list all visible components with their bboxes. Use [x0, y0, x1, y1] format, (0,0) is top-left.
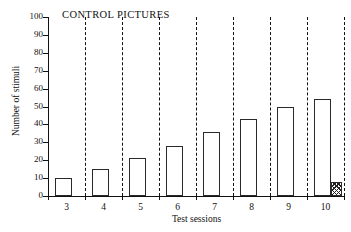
y-tick-label: 50	[19, 102, 43, 111]
x-tick-label: 7	[202, 202, 228, 213]
bar	[277, 107, 294, 197]
y-tick-label: 80	[19, 48, 43, 57]
x-tick	[344, 196, 345, 200]
bar-series	[48, 17, 344, 196]
x-tick	[307, 196, 308, 200]
y-tick-label: 30	[19, 137, 43, 146]
bar-hatched	[331, 182, 342, 196]
x-tick	[270, 196, 271, 200]
x-tick	[85, 196, 86, 200]
bar	[55, 178, 72, 196]
bar	[129, 158, 146, 196]
y-tick-label: 70	[19, 66, 43, 75]
bar	[92, 169, 109, 196]
y-tick-label-wrap: 70	[0, 66, 43, 75]
session-separator	[344, 17, 345, 196]
x-tick-label: 10	[313, 202, 339, 213]
bar	[203, 132, 220, 196]
x-tick	[159, 196, 160, 200]
x-tick-label: 5	[128, 202, 154, 213]
y-tick-label: 100	[19, 12, 43, 21]
y-tick-label-wrap: 50	[0, 102, 43, 111]
y-tick-label-wrap: 10	[0, 173, 43, 182]
bar	[314, 99, 331, 196]
y-tick-label-wrap: 60	[0, 84, 43, 93]
bar	[240, 119, 257, 196]
y-tick-label: 20	[19, 155, 43, 164]
y-tick-label: 90	[19, 30, 43, 39]
x-tick-label: 3	[54, 202, 80, 213]
y-tick-label: 0	[19, 191, 43, 200]
y-tick-label: 60	[19, 84, 43, 93]
x-tick-label: 8	[239, 202, 265, 213]
y-tick-label: 10	[19, 173, 43, 182]
x-tick	[122, 196, 123, 200]
x-tick-label: 9	[276, 202, 302, 213]
y-tick-label-wrap: 0	[0, 191, 43, 200]
x-tick	[196, 196, 197, 200]
chart-figure: CONTROL PICTURES Number of stimuli Test …	[0, 0, 351, 232]
y-tick-label-wrap: 80	[0, 48, 43, 57]
y-tick-label-wrap: 20	[0, 155, 43, 164]
x-tick	[48, 196, 49, 200]
x-tick-label: 4	[91, 202, 117, 213]
y-tick-label-wrap: 90	[0, 30, 43, 39]
y-tick-label-wrap: 30	[0, 137, 43, 146]
y-tick-label: 40	[19, 119, 43, 128]
y-tick-label-wrap: 40	[0, 119, 43, 128]
bar	[166, 146, 183, 196]
x-axis-label: Test sessions	[48, 214, 345, 224]
x-tick	[233, 196, 234, 200]
y-tick-label-wrap: 100	[0, 12, 43, 21]
x-tick-label: 6	[165, 202, 191, 213]
